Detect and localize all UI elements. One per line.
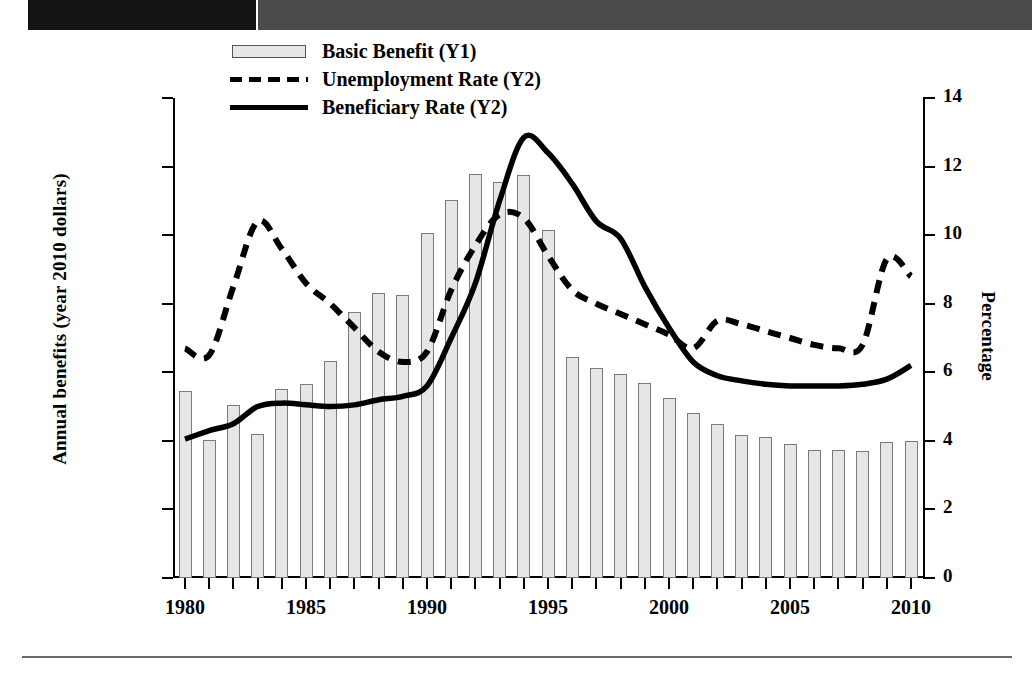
x-axis-tick [620, 578, 622, 589]
y-axis-right-tick-label: 2 [943, 496, 1003, 518]
unemployment-rate-line [185, 212, 911, 362]
y-axis-left-title: Annual benefits (year 2010 dollars) [49, 109, 71, 529]
x-axis-tick [305, 578, 307, 589]
x-axis-tick [257, 578, 259, 589]
y-axis-right-tick [923, 303, 935, 305]
x-axis-tick-label: 2010 [866, 596, 956, 619]
x-axis-tick-label: 1990 [382, 596, 472, 619]
y-axis-right-tick [923, 508, 935, 510]
line-series-layer [173, 98, 925, 578]
x-axis-tick [402, 578, 404, 589]
x-axis-tick [547, 578, 549, 589]
x-axis-tick [281, 578, 283, 589]
plot-area: $5,000$6,000$7,000$8,000$9,000$10,000$11… [173, 98, 925, 578]
x-axis-tick [474, 578, 476, 589]
scan-header-bar [0, 0, 1032, 30]
legend-label: Unemployment Rate (Y2) [322, 68, 541, 91]
x-axis-tick [862, 578, 864, 589]
x-axis-tick [184, 578, 186, 589]
y-axis-left-tick [162, 234, 173, 236]
y-axis-right-tick [923, 166, 935, 168]
y-axis-left-tick [162, 97, 173, 99]
x-axis-tick-label: 1995 [503, 596, 593, 619]
x-axis-tick-label: 2000 [624, 596, 714, 619]
y-axis-left-tick [162, 440, 173, 442]
y-axis-right-tick-label: 8 [943, 291, 1003, 313]
y-axis-right-title: Percentage [977, 226, 999, 446]
legend-label: Basic Benefit (Y1) [322, 40, 476, 63]
legend-item-unemployment-rate: Unemployment Rate (Y2) [228, 66, 541, 92]
legend-item-basic-benefit: Basic Benefit (Y1) [228, 38, 541, 64]
y-axis-left-tick [162, 508, 173, 510]
x-axis-tick [208, 578, 210, 589]
y-axis-right-tick [923, 440, 935, 442]
y-axis-right-tick [923, 577, 935, 579]
scan-header-dark-block [28, 0, 256, 30]
beneficiary-rate-line [185, 135, 911, 439]
scan-header-gray-block [258, 0, 1032, 30]
x-axis-tick [499, 578, 501, 589]
x-axis-tick [837, 578, 839, 589]
y-axis-left-tick [162, 303, 173, 305]
x-axis-tick [644, 578, 646, 589]
y-axis-left-tick [162, 577, 173, 579]
x-axis-tick [886, 578, 888, 589]
page-bottom-rule [22, 656, 1012, 658]
figure-page: Annual benefits (year 2010 dollars) Perc… [0, 0, 1032, 673]
y-axis-right-tick-label: 4 [943, 428, 1003, 450]
x-axis-tick [232, 578, 234, 589]
x-axis-tick [426, 578, 428, 589]
x-axis-tick [595, 578, 597, 589]
x-axis-tick [450, 578, 452, 589]
y-axis-right-tick-label: 0 [943, 565, 1003, 587]
x-axis-tick [668, 578, 670, 589]
y-axis-right-tick [923, 234, 935, 236]
y-axis-right-tick-label: 12 [943, 154, 1003, 176]
x-axis-tick [765, 578, 767, 589]
x-axis-tick [716, 578, 718, 589]
x-axis-tick-label: 1985 [261, 596, 351, 619]
x-axis-tick [789, 578, 791, 589]
x-axis-tick [741, 578, 743, 589]
dashed-line-swatch-icon [228, 68, 310, 90]
y-axis-right-tick [923, 97, 935, 99]
y-axis-right-tick-label: 10 [943, 222, 1003, 244]
x-axis-tick [813, 578, 815, 589]
x-axis-tick-label: 2005 [745, 596, 835, 619]
x-axis-tick [523, 578, 525, 589]
x-axis-tick-label: 1980 [140, 596, 230, 619]
y-axis-right-tick-label: 14 [943, 85, 1003, 107]
y-axis-right-tick-label: 6 [943, 359, 1003, 381]
x-axis-tick [910, 578, 912, 589]
x-axis-tick [692, 578, 694, 589]
x-axis-tick [378, 578, 380, 589]
y-axis-left-tick [162, 166, 173, 168]
y-axis-right-tick [923, 371, 935, 373]
x-axis-tick [329, 578, 331, 589]
x-axis-tick [571, 578, 573, 589]
chart-figure: Annual benefits (year 2010 dollars) Perc… [0, 30, 1032, 650]
y-axis-left-tick [162, 371, 173, 373]
x-axis-tick [353, 578, 355, 589]
bar-swatch-icon [228, 40, 310, 62]
